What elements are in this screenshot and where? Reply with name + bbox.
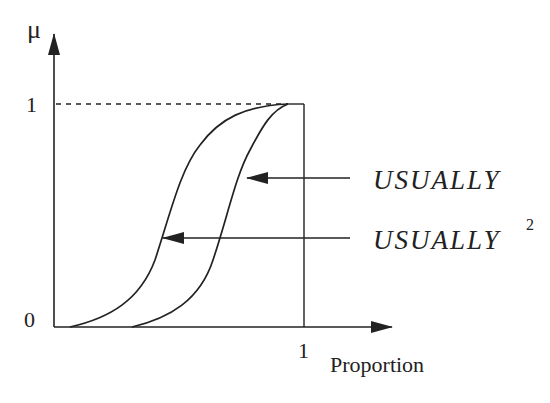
y-axis-label: μ xyxy=(27,15,41,44)
usually-squared-curve xyxy=(70,104,288,327)
membership-diagram: μ 1 0 1 Proportion USUALLY USUALLY 2 xyxy=(0,0,550,403)
usually-squared-exponent: 2 xyxy=(526,216,534,233)
x-axis-label: Proportion xyxy=(330,352,424,377)
usually-curve xyxy=(132,104,288,327)
usually-squared-label: USUALLY xyxy=(373,225,501,255)
y-tick-one: 1 xyxy=(26,92,37,117)
y-tick-zero: 0 xyxy=(24,307,35,332)
x-tick-one: 1 xyxy=(298,338,309,363)
usually-label: USUALLY xyxy=(373,165,501,195)
